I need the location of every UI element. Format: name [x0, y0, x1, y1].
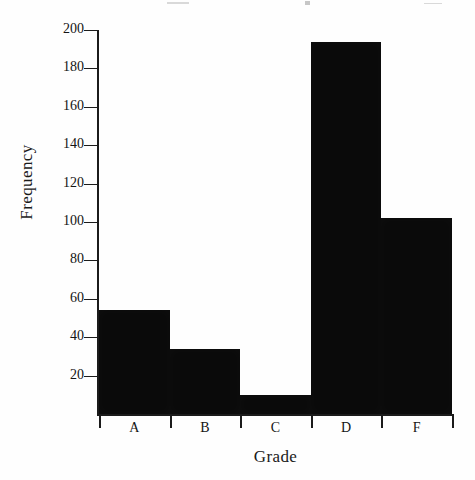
bar: [170, 349, 241, 414]
scan-artifact: [424, 3, 442, 4]
y-axis-tick-label: 40: [38, 329, 84, 343]
y-axis-tick-mark: [84, 337, 97, 338]
bar: [240, 395, 311, 414]
y-axis-label: Frequency: [17, 117, 37, 247]
x-axis-category-label: F: [381, 420, 452, 436]
y-axis-tick-label: 180: [38, 60, 84, 74]
y-axis-tick-mark: [84, 145, 97, 146]
bar: [99, 310, 170, 414]
y-axis-tick-mark: [84, 107, 97, 108]
y-axis-tick-mark: [84, 376, 97, 377]
y-axis-tick-label: 20: [38, 368, 84, 382]
y-axis-tick-label: 120: [38, 176, 84, 190]
bar: [311, 42, 382, 414]
x-axis-category-label: B: [170, 420, 241, 436]
x-axis-line: [97, 414, 454, 416]
x-axis-category-label: C: [240, 420, 311, 436]
bar: [381, 218, 452, 414]
y-axis-tick-label: 160: [38, 99, 84, 113]
y-axis-tick-mark: [84, 299, 97, 300]
y-axis-tick-label: 140: [38, 137, 84, 151]
x-axis-category-label: D: [311, 420, 382, 436]
y-axis-tick-label: 100: [38, 214, 84, 228]
y-axis-tick-label: 80: [38, 252, 84, 266]
y-axis-tick-mark: [84, 68, 97, 69]
scan-artifact: [167, 2, 189, 4]
x-axis-label: Grade: [97, 447, 454, 467]
scan-artifact: [305, 1, 310, 5]
y-axis-ticks: 20018016014012010080604020: [38, 0, 84, 480]
histogram-chart: Frequency 20018016014012010080604020 ABC…: [0, 0, 475, 480]
y-axis-tick-mark: [84, 184, 97, 185]
y-axis-tick-mark: [84, 260, 97, 261]
plot-area: [99, 30, 452, 414]
x-axis-category-label: A: [99, 420, 170, 436]
x-axis-tick-mark: [452, 416, 454, 428]
y-axis-tick-mark: [84, 222, 97, 223]
y-axis-tick-mark: [84, 30, 97, 31]
y-axis-tick-label: 60: [38, 291, 84, 305]
y-axis-tick-label: 200: [38, 22, 84, 36]
